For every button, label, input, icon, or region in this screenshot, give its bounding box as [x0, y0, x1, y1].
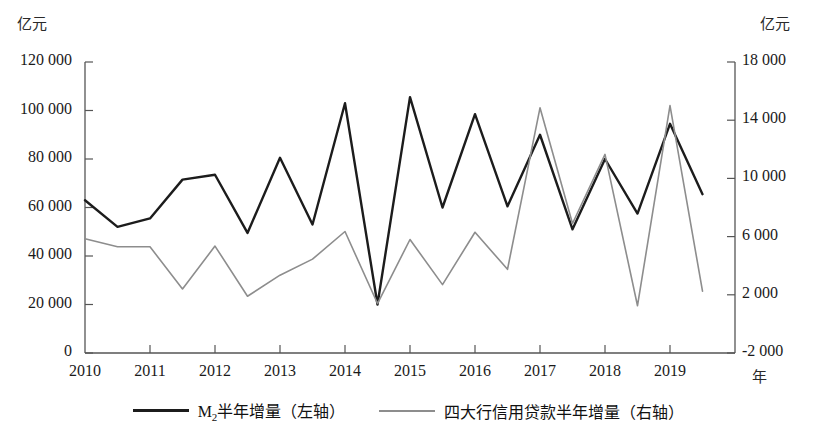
left-tick-label: 100 000	[6, 100, 72, 118]
x-axis-ticks	[150, 345, 670, 353]
left-tick-label: 60 000	[6, 197, 72, 215]
x-tick-label: 2017	[510, 362, 570, 380]
right-tick-label: 14 000	[742, 109, 786, 127]
series-lines	[85, 97, 703, 306]
chart-legend: M2半年增量（左轴） 四大行信用贷款半年增量（右轴）	[0, 398, 817, 423]
right-tick-label: -2 000	[742, 342, 783, 360]
axis-lines	[85, 62, 735, 353]
right-axis-ticks	[727, 62, 735, 353]
x-tick-label: 2015	[380, 362, 440, 380]
left-tick-label: 20 000	[6, 294, 72, 312]
chart-root: 亿元 亿元 120 000100 00080 00060 00040 00020…	[0, 0, 817, 428]
legend-swatch-m2	[133, 409, 189, 412]
x-tick-label: 2019	[640, 362, 700, 380]
left-tick-label: 0	[6, 342, 72, 360]
x-tick-label: 2012	[185, 362, 245, 380]
right-tick-label: 10 000	[742, 167, 786, 185]
left-axis-ticks	[85, 62, 93, 353]
x-tick-label: 2010	[55, 362, 115, 380]
x-axis-unit-label: 年	[752, 365, 767, 386]
x-tick-label: 2016	[445, 362, 505, 380]
legend-item-m2[interactable]: M2半年增量（左轴）	[133, 398, 346, 423]
right-tick-label: 2 000	[742, 284, 778, 302]
legend-label-bank-credit: 四大行信用贷款半年增量（右轴）	[444, 399, 684, 423]
left-tick-label: 80 000	[6, 148, 72, 166]
x-tick-label: 2014	[315, 362, 375, 380]
right-tick-label: 18 000	[742, 51, 786, 69]
x-tick-label: 2018	[575, 362, 635, 380]
legend-label-m2: M2半年增量（左轴）	[198, 398, 346, 423]
right-tick-label: 6 000	[742, 226, 778, 244]
x-tick-label: 2013	[250, 362, 310, 380]
legend-item-bank-credit[interactable]: 四大行信用贷款半年增量（右轴）	[379, 399, 684, 423]
x-tick-label: 2011	[120, 362, 180, 380]
left-tick-label: 120 000	[6, 51, 72, 69]
left-tick-label: 40 000	[6, 245, 72, 263]
series-line-m2	[85, 97, 703, 304]
legend-swatch-bank-credit	[379, 410, 435, 412]
